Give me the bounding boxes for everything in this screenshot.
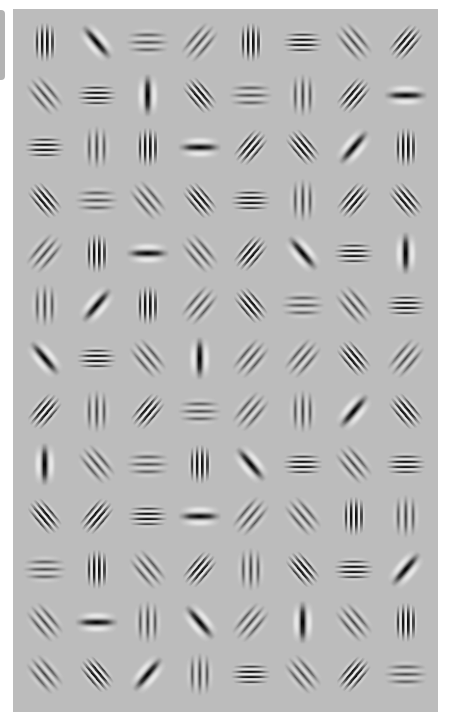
gabor-patch-icon	[380, 69, 432, 122]
gabor-filter-cell	[225, 332, 277, 385]
gabor-patch-icon	[380, 596, 432, 649]
gabor-filter-cell	[277, 121, 329, 174]
gabor-filter-cell	[174, 227, 226, 280]
gabor-patch-icon	[174, 385, 226, 438]
gabor-patch-icon	[71, 279, 123, 332]
gabor-patch-icon	[19, 174, 71, 227]
gabor-filter-cell	[328, 69, 380, 122]
gabor-filter-cell	[174, 69, 226, 122]
gabor-patch-icon	[380, 279, 432, 332]
gabor-filter-cell	[19, 16, 71, 69]
gabor-patch-icon	[277, 69, 329, 122]
gabor-patch-icon	[277, 332, 329, 385]
gabor-patch-icon	[380, 490, 432, 543]
gabor-patch-icon	[174, 543, 226, 596]
gabor-patch-icon	[174, 121, 226, 174]
gabor-patch-icon	[225, 16, 277, 69]
gabor-patch-icon	[174, 174, 226, 227]
gabor-patch-icon	[328, 332, 380, 385]
gabor-patch-icon	[122, 385, 174, 438]
gabor-filter-cell	[19, 596, 71, 649]
gabor-patch-icon	[174, 279, 226, 332]
gabor-filter-cell	[328, 385, 380, 438]
gabor-filter-cell	[225, 490, 277, 543]
gabor-filter-cell	[174, 490, 226, 543]
gabor-patch-icon	[19, 16, 71, 69]
gabor-patch-icon	[122, 438, 174, 491]
gabor-filter-cell	[225, 227, 277, 280]
gabor-filter-cell	[122, 174, 174, 227]
gabor-patch-icon	[122, 16, 174, 69]
gabor-filter-cell	[19, 490, 71, 543]
gabor-filter-cell	[225, 385, 277, 438]
gabor-patch-icon	[225, 543, 277, 596]
gabor-filter-cell	[122, 279, 174, 332]
gabor-filter-cell	[277, 279, 329, 332]
gabor-patch-icon	[277, 543, 329, 596]
gabor-patch-icon	[122, 227, 174, 280]
gabor-patch-icon	[328, 227, 380, 280]
gabor-filter-cell	[19, 279, 71, 332]
gabor-filter-cell	[71, 490, 123, 543]
gabor-patch-icon	[19, 227, 71, 280]
gabor-patch-icon	[277, 174, 329, 227]
gabor-patch-icon	[71, 648, 123, 701]
gabor-filter-cell	[277, 174, 329, 227]
gabor-patch-icon	[328, 385, 380, 438]
gabor-filter-cell	[380, 174, 432, 227]
gabor-patch-icon	[328, 490, 380, 543]
gabor-patch-icon	[174, 596, 226, 649]
gabor-filter-cell	[174, 332, 226, 385]
gabor-filter-cell	[19, 543, 71, 596]
gabor-patch-icon	[328, 438, 380, 491]
side-tab-handle[interactable]	[0, 10, 5, 80]
gabor-patch-icon	[225, 385, 277, 438]
gabor-patch-icon	[71, 543, 123, 596]
gabor-filter-cell	[71, 227, 123, 280]
gabor-patch-icon	[19, 438, 71, 491]
gabor-filter-cell	[19, 227, 71, 280]
gabor-filter-cell	[19, 385, 71, 438]
gabor-patch-icon	[277, 385, 329, 438]
gabor-patch-icon	[380, 648, 432, 701]
gabor-patch-icon	[71, 385, 123, 438]
gabor-filter-cell	[328, 227, 380, 280]
gabor-filter-cell	[328, 490, 380, 543]
gabor-patch-icon	[380, 438, 432, 491]
gabor-filter-cell	[225, 279, 277, 332]
gabor-patch-icon	[380, 543, 432, 596]
gabor-filter-cell	[174, 121, 226, 174]
gabor-filter-cell	[174, 385, 226, 438]
gabor-patch-icon	[122, 121, 174, 174]
gabor-patch-icon	[122, 648, 174, 701]
gabor-filter-cell	[277, 69, 329, 122]
gabor-patch-icon	[19, 69, 71, 122]
gabor-patch-icon	[71, 490, 123, 543]
gabor-filter-cell	[225, 648, 277, 701]
gabor-filter-cell	[380, 121, 432, 174]
gabor-patch-icon	[225, 174, 277, 227]
gabor-filter-cell	[71, 332, 123, 385]
gabor-patch-icon	[380, 174, 432, 227]
gabor-filter-cell	[328, 543, 380, 596]
gabor-filter-cell	[122, 16, 174, 69]
gabor-filter-cell	[174, 596, 226, 649]
gabor-patch-icon	[380, 385, 432, 438]
gabor-filter-grid	[19, 16, 431, 701]
gabor-patch-icon	[71, 596, 123, 649]
gabor-patch-icon	[19, 648, 71, 701]
gabor-filter-cell	[328, 121, 380, 174]
gabor-filter-cell	[122, 121, 174, 174]
gabor-filter-cell	[122, 543, 174, 596]
gabor-patch-icon	[328, 279, 380, 332]
gabor-patch-icon	[225, 490, 277, 543]
gabor-filter-cell	[328, 596, 380, 649]
gabor-filter-cell	[380, 543, 432, 596]
gabor-patch-icon	[174, 438, 226, 491]
gabor-patch-icon	[122, 543, 174, 596]
gabor-patch-icon	[225, 69, 277, 122]
gabor-filter-grid-panel	[13, 9, 438, 712]
gabor-patch-icon	[225, 438, 277, 491]
gabor-patch-icon	[71, 332, 123, 385]
gabor-patch-icon	[277, 648, 329, 701]
